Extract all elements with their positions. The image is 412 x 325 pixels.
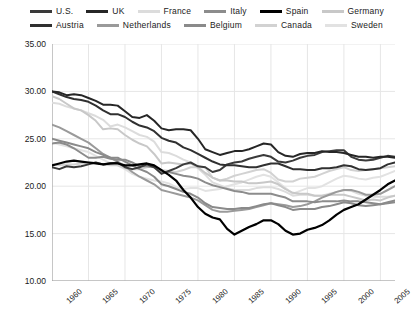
legend-swatch-icon: [184, 24, 206, 27]
chart-legend: U.S.UKFranceItalySpainGermanyAustriaNeth…: [0, 4, 403, 32]
legend-label: Canada: [281, 20, 312, 30]
grid-lines: [52, 44, 395, 281]
x-tick-label: 1965: [101, 287, 120, 306]
legend-item-belgium[interactable]: Belgium: [184, 20, 242, 30]
legend-item-france[interactable]: France: [138, 6, 192, 16]
legend-label: Netherlands: [123, 20, 171, 30]
y-tick-label: 30.00: [2, 86, 46, 96]
x-axis-tick-labels: 1960196519701975198019851990199520002005: [0, 284, 403, 324]
plot-svg: [52, 44, 395, 281]
legend-swatch-icon: [204, 10, 226, 13]
legend-swatch-icon: [260, 10, 282, 13]
legend-item-germany[interactable]: Germany: [322, 6, 384, 16]
legend-row: U.S.UKFranceItalySpainGermany: [0, 4, 403, 18]
legend-swatch-icon: [86, 10, 108, 13]
legend-item-netherlands[interactable]: Netherlands: [97, 20, 171, 30]
legend-label: UK: [112, 6, 124, 16]
x-tick-label: 1980: [211, 287, 230, 306]
x-tick-label: 1970: [138, 287, 157, 306]
legend-item-sweden[interactable]: Sweden: [325, 20, 383, 30]
y-tick-label: 35.00: [2, 39, 46, 49]
legend-item-austria[interactable]: Austria: [30, 20, 84, 30]
plot-area: [52, 44, 395, 281]
legend-item-spain[interactable]: Spain: [260, 6, 309, 16]
legend-item-uk[interactable]: UK: [86, 6, 124, 16]
y-tick-label: 20.00: [2, 181, 46, 191]
x-tick-label: 1995: [320, 287, 339, 306]
y-tick-label: 25.00: [2, 134, 46, 144]
legend-swatch-icon: [97, 24, 119, 27]
legend-item-canada[interactable]: Canada: [255, 20, 312, 30]
legend-label: U.S.: [56, 6, 73, 16]
x-tick-label: 2000: [356, 287, 375, 306]
legend-swatch-icon: [30, 10, 52, 13]
legend-label: Austria: [56, 20, 84, 30]
legend-label: Germany: [348, 6, 384, 16]
x-tick-label: 1985: [247, 287, 266, 306]
legend-label: Belgium: [210, 20, 242, 30]
legend-row: AustriaNetherlandsBelgiumCanadaSweden: [0, 18, 403, 32]
legend-swatch-icon: [255, 24, 277, 27]
legend-swatch-icon: [138, 10, 160, 13]
legend-swatch-icon: [325, 24, 347, 27]
x-tick-label: 2005: [393, 287, 412, 306]
legend-label: Italy: [230, 6, 247, 16]
x-tick-label: 1960: [65, 287, 84, 306]
legend-label: Spain: [286, 6, 309, 16]
legend-label: France: [164, 6, 192, 16]
legend-label: Sweden: [351, 20, 383, 30]
legend-swatch-icon: [322, 10, 344, 13]
legend-item-italy[interactable]: Italy: [204, 6, 247, 16]
x-tick-label: 1990: [283, 287, 302, 306]
x-tick-label: 1975: [174, 287, 193, 306]
legend-swatch-icon: [30, 24, 52, 27]
legend-item-us[interactable]: U.S.: [30, 6, 73, 16]
y-axis-tick-labels: 35.0030.0025.0020.0015.0010.00: [0, 44, 46, 281]
y-tick-label: 15.00: [2, 229, 46, 239]
